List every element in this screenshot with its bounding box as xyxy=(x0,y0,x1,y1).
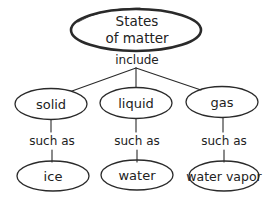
example-ice: ice xyxy=(44,169,63,184)
root-node: States of matter xyxy=(105,13,168,47)
link-label-gas: such as xyxy=(201,134,246,148)
link-label-solid: such as xyxy=(29,134,74,148)
link-label-liquid: such as xyxy=(114,134,159,148)
example-water: water xyxy=(118,168,155,183)
category-solid: solid xyxy=(36,97,66,112)
root-node-line1: States xyxy=(105,13,168,30)
root-node-line2: of matter xyxy=(105,30,168,47)
category-liquid: liquid xyxy=(118,96,154,111)
example-water-vapor: water vapor xyxy=(186,169,261,184)
root-link-label: include xyxy=(115,53,158,67)
connector-root-gas xyxy=(136,68,201,90)
category-gas: gas xyxy=(211,95,234,110)
